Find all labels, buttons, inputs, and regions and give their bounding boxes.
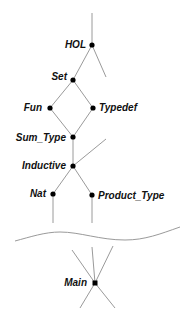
label-nat: Nat	[30, 188, 47, 199]
edge-typedef-sumtype	[73, 108, 93, 137]
edge-set-fun	[50, 80, 73, 108]
node-product-type	[89, 192, 94, 197]
node-fun	[47, 105, 52, 110]
node-inductive	[70, 163, 75, 168]
edge-main-2	[92, 247, 95, 283]
label-inductive: Inductive	[22, 160, 66, 171]
edge-main-3	[95, 246, 113, 283]
edge-main-5	[95, 283, 115, 308]
theory-graph: HOL Set Fun Typedef Sum_Type Inductive N…	[0, 0, 186, 324]
label-product-type: Product_Type	[98, 190, 165, 201]
node-main	[93, 281, 98, 286]
label-main: Main	[64, 277, 87, 288]
node-hol	[89, 42, 94, 47]
node-sum-type	[70, 134, 75, 139]
label-sum-type: Sum_Type	[16, 132, 67, 143]
break-wavy-line	[15, 227, 180, 241]
node-nat	[50, 191, 55, 196]
label-hol: HOL	[65, 39, 86, 50]
node-typedef	[90, 105, 95, 110]
edge-inductive-upright	[73, 139, 106, 166]
edge-inductive-product	[73, 166, 92, 195]
label-set: Set	[51, 71, 67, 82]
label-typedef: Typedef	[99, 102, 139, 113]
node-set	[70, 77, 75, 82]
edge-set-typedef	[73, 80, 93, 108]
label-fun: Fun	[24, 102, 42, 113]
edge-hol-right	[92, 45, 106, 77]
edge-hol-set	[73, 45, 92, 80]
